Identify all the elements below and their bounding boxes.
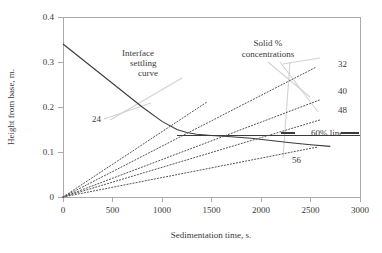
series-label-24: 24: [92, 114, 102, 124]
y-axis-title: Height from base, m.: [6, 69, 16, 145]
x-tick-label: 500: [106, 205, 120, 215]
leader-line-24: [104, 103, 151, 119]
x-tick-label: 0: [61, 205, 66, 215]
annotation-concentrations: concentrations: [242, 49, 295, 59]
x-tick-label: 1500: [203, 205, 222, 215]
y-axis-ticks: 0 0.1 0.2 0.3 0.4: [43, 12, 63, 202]
sedimentation-chart: 0 0.1 0.2 0.3 0.4 0 500 1000 1500 2000 2…: [0, 0, 382, 253]
series-56: [63, 147, 317, 197]
x-tick-label: 2500: [302, 205, 321, 215]
series-label-40: 40: [338, 86, 348, 96]
y-tick-label: 0.2: [43, 102, 54, 112]
series-label-56: 56: [292, 155, 302, 165]
y-tick-label: 0: [50, 192, 55, 202]
leader-lines: [104, 58, 320, 158]
series-32: [63, 67, 316, 197]
series-24: [63, 102, 207, 197]
series-48: [63, 120, 320, 197]
series-label-48: 48: [338, 105, 348, 115]
x-tick-label: 1000: [153, 205, 172, 215]
annotation-settling: settling: [130, 58, 157, 68]
y-tick-label: 0.3: [43, 57, 55, 67]
series-label-layer: 243240485660% line: [92, 59, 348, 165]
annotation-solid: Solid %: [254, 38, 283, 48]
x-axis-title: Sedimentation time, s.: [171, 230, 252, 240]
x-axis-ticks: 0 500 1000 1500 2000 2500 3000: [61, 197, 370, 215]
y-tick-label: 0.1: [43, 147, 54, 157]
y-tick-label: 0.4: [43, 12, 55, 22]
series-label-32: 32: [338, 59, 347, 69]
annotation-interface: Interface: [122, 48, 154, 58]
x-tick-label: 2000: [252, 205, 271, 215]
data-series-layer: [63, 44, 360, 197]
annotation-curve: curve: [138, 68, 158, 78]
leader-line-56: [283, 62, 290, 158]
series-label-60-line: 60% line: [311, 128, 343, 138]
chart-axes: [63, 17, 360, 197]
x-tick-label: 3000: [351, 205, 370, 215]
series-interface-settling-curve: [63, 44, 330, 146]
annotation-layer: InterfacesettlingcurveSolid %concentrati…: [122, 38, 295, 78]
series-40: [63, 100, 319, 197]
chart-canvas: 0 0.1 0.2 0.3 0.4 0 500 1000 1500 2000 2…: [0, 0, 382, 253]
